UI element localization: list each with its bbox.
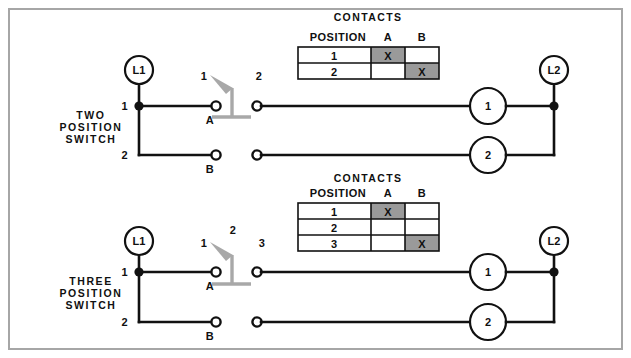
position-marker-1: 1 [201,70,208,82]
junction-l1 [134,267,143,276]
table-cell-r2-b-fill [405,219,439,235]
switch-diagram: TWO POSITION SWITCH L1 1 2 A [0,0,631,358]
source-terminal-2-label: 2 [121,316,128,328]
table-row-1-contact-a: X [384,50,392,62]
load-node-2-label: 2 [485,149,491,161]
switch-terminal-a[interactable] [211,101,220,110]
table-row-2-position: 2 [331,66,337,78]
position-marker-2: 2 [230,224,237,236]
load-node-1-label: 1 [485,266,491,278]
position-marker-3: 3 [259,237,266,249]
table-row-1-position: 1 [331,206,337,218]
table-cell-r3-a-fill [371,235,405,251]
table-row-3-position: 3 [331,238,337,250]
source-terminal-1-label: 1 [121,266,128,278]
circuit-caption-line-2: POSITION [60,121,123,133]
table-column-header-a: A [384,187,392,199]
switch-lever-arrow-icon[interactable] [210,242,233,261]
table-row-2-position: 2 [331,222,337,234]
table-position-header: POSITION [310,187,367,199]
position-marker-1: 1 [201,237,208,249]
table-cell-r1-b-fill [405,203,439,219]
table-cell-r2-a-fill [371,219,405,235]
circuit-caption-line-1: TWO [76,109,105,121]
switch-lever-arrow-icon[interactable] [210,75,233,94]
table-cell-r2-a-fill [371,63,405,79]
table-column-header-b: B [418,187,426,199]
table-column-header-a: A [384,31,392,43]
switch-terminal-a[interactable] [211,267,220,276]
switch-terminal-b-label: B [206,163,214,175]
table-position-header: POSITION [310,31,367,43]
circuit-caption-line-2: POSITION [60,287,123,299]
contact-table-three-position: CONTACTS POSITION A B 1 X 2 [298,172,439,251]
table-cell-r1-b-fill [405,47,439,63]
return-node-l2-label: L2 [548,64,561,76]
junction-l1 [134,101,143,110]
switch-terminal-a-label: A [206,280,214,292]
return-node-l2-label: L2 [548,235,561,247]
table-contacts-header: CONTACTS [334,11,403,23]
table-contacts-header: CONTACTS [334,172,403,184]
position-marker-2: 2 [256,70,263,82]
contact-table-two-position: CONTACTS POSITION A B 1 X 2 [298,11,439,79]
table-row-1-position: 1 [331,50,337,62]
table-row-2-contact-b: X [418,66,426,78]
source-node-l1-label: L1 [133,64,146,76]
circuit-caption-line-3: SWITCH [65,299,116,311]
table-column-header-b: B [418,31,426,43]
switch-terminal-b[interactable] [211,317,220,326]
switch-terminal-a-label: A [206,114,214,126]
diagram-canvas: TWO POSITION SWITCH L1 1 2 A [0,0,631,358]
junction-l2 [549,267,558,276]
switch-terminal-b[interactable] [211,150,220,159]
circuit-caption-line-3: SWITCH [65,133,116,145]
source-terminal-2-label: 2 [121,149,128,161]
load-node-1-label: 1 [485,100,491,112]
switch-terminal-b-label: B [206,330,214,342]
source-node-l1-label: L1 [133,235,146,247]
table-row-1-contact-a: X [384,206,392,218]
load-node-2-label: 2 [485,316,491,328]
circuit-two-position: TWO POSITION SWITCH L1 1 2 A [60,11,568,175]
source-terminal-1-label: 1 [121,100,128,112]
circuit-caption-line-1: THREE [69,275,113,287]
junction-l2 [549,101,558,110]
table-row-3-contact-b: X [418,238,426,250]
circuit-three-position: THREE POSITION SWITCH L1 1 2 A B 1 2 3 [60,172,568,342]
